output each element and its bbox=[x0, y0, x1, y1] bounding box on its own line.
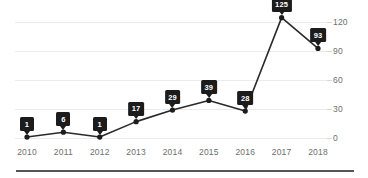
y-axis-tick-mark bbox=[327, 51, 332, 52]
y-axis-tick-text: 30 bbox=[333, 104, 343, 114]
y-axis-tick-label: 90 bbox=[333, 45, 368, 57]
x-axis-tick-label: 2012 bbox=[90, 145, 110, 159]
data-point-marker bbox=[134, 119, 139, 124]
x-axis: 201020112012201320142015201620172018 bbox=[15, 145, 330, 159]
x-axis-tick-label: 2018 bbox=[308, 145, 328, 159]
y-axis-tick-label: 0 bbox=[333, 132, 368, 144]
data-point-marker bbox=[170, 107, 175, 112]
data-point-marker bbox=[243, 108, 248, 113]
y-axis: 0306090120 bbox=[333, 8, 368, 138]
series-path bbox=[27, 18, 318, 137]
data-point-marker bbox=[315, 46, 320, 51]
x-axis-tick-label: 2011 bbox=[54, 145, 73, 159]
x-axis-tick-label: 2016 bbox=[235, 145, 255, 159]
bottom-rule-divider bbox=[16, 170, 354, 172]
y-axis-tick-text: 0 bbox=[333, 133, 338, 143]
y-axis-tick-mark bbox=[327, 80, 332, 81]
data-point-marker bbox=[97, 134, 102, 139]
line-chart: 1611729392812593 0306090120 201020112012… bbox=[0, 0, 368, 178]
data-point-marker bbox=[279, 15, 284, 20]
data-point-marker bbox=[206, 98, 211, 103]
y-axis-tick-label: 30 bbox=[333, 103, 368, 115]
y-axis-tick-mark bbox=[327, 22, 332, 23]
y-axis-tick-mark bbox=[327, 109, 332, 110]
y-axis-tick-mark bbox=[327, 138, 332, 139]
x-axis-tick-label: 2015 bbox=[199, 145, 219, 159]
y-axis-tick-label: 120 bbox=[333, 16, 368, 28]
series-line bbox=[15, 8, 330, 138]
x-axis-tick-label: 2014 bbox=[163, 145, 183, 159]
x-axis-tick-label: 2013 bbox=[126, 145, 146, 159]
y-axis-tick-text: 90 bbox=[333, 46, 343, 56]
y-axis-tick-text: 120 bbox=[333, 17, 348, 27]
x-axis-tick-label: 2017 bbox=[272, 145, 292, 159]
x-axis-tick-label: 2010 bbox=[17, 145, 37, 159]
data-point-marker bbox=[24, 134, 29, 139]
gridline-0 bbox=[15, 138, 330, 139]
plot-area: 1611729392812593 bbox=[15, 8, 330, 138]
y-axis-tick-label: 60 bbox=[333, 74, 368, 86]
y-axis-tick-text: 60 bbox=[333, 75, 343, 85]
data-point-marker bbox=[61, 130, 66, 135]
